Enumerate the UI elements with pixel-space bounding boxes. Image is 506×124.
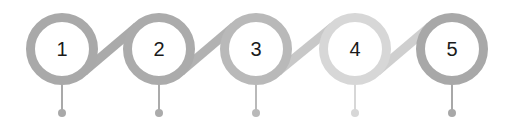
step-dot — [351, 109, 359, 117]
step-number-label: 5 — [432, 34, 472, 64]
step-number-label: 3 — [236, 34, 276, 64]
step-dot — [58, 109, 66, 117]
step-timeline-diagram: 12345 — [0, 0, 506, 124]
step-dot — [252, 109, 260, 117]
step-number-label: 2 — [139, 34, 179, 64]
step-number-label: 1 — [42, 34, 82, 64]
step-dot — [155, 109, 163, 117]
step-dot — [448, 109, 456, 117]
step-number-label: 4 — [335, 34, 375, 64]
